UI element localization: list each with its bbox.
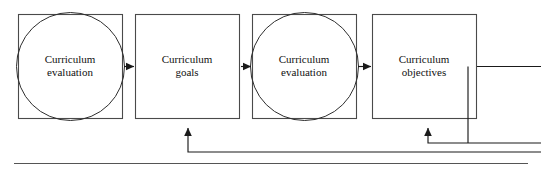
node-box-curriculum-goals: [136, 15, 240, 119]
node-box-curriculum-objectives: [373, 15, 477, 119]
node-circle-curriculum-evaluation-2: [251, 13, 359, 121]
node-box-curriculum-evaluation-1: [19, 15, 123, 119]
connector-feedback-to-objectives: [428, 128, 541, 143]
connector-feedback-to-goals: [188, 128, 541, 152]
node-box-curriculum-evaluation-2: [253, 15, 357, 119]
diagram-vector-layer: [0, 0, 542, 178]
node-circle-curriculum-evaluation-1: [17, 13, 125, 121]
diagram-canvas: Curriculum evaluation Curriculum goals C…: [0, 0, 542, 178]
